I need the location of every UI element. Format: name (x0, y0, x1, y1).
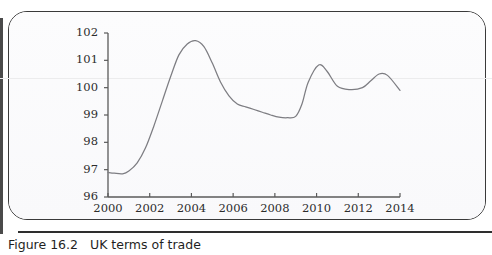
y-tick-label-99: 99 (68, 107, 98, 121)
x-tick-label-2012: 2012 (338, 201, 378, 215)
x-tick-label-2000: 2000 (88, 201, 128, 215)
x-tick-label-2004: 2004 (171, 201, 211, 215)
figure-caption-number: Figure 16.2 (8, 237, 78, 252)
x-tick-label-2006: 2006 (213, 201, 253, 215)
y-tick-label-98: 98 (68, 134, 98, 148)
y-tick-label-101: 101 (68, 52, 98, 66)
y-tick-label-97: 97 (68, 162, 98, 176)
x-tick-label-2008: 2008 (255, 201, 295, 215)
x-tick-label-2002: 2002 (130, 201, 170, 215)
figure-container: 96979899100101102 2000200220042006200820… (0, 0, 492, 255)
figure-caption: Figure 16.2UK terms of trade (8, 237, 201, 252)
x-tick-label-2014: 2014 (380, 201, 420, 215)
y-tick-label-100: 100 (68, 80, 98, 94)
data-series-line (108, 41, 400, 174)
y-tick-label-102: 102 (68, 25, 98, 39)
x-tick-label-2010: 2010 (297, 201, 337, 215)
caption-divider (18, 231, 492, 233)
figure-caption-text: UK terms of trade (90, 237, 201, 252)
axis-lines (108, 33, 400, 197)
